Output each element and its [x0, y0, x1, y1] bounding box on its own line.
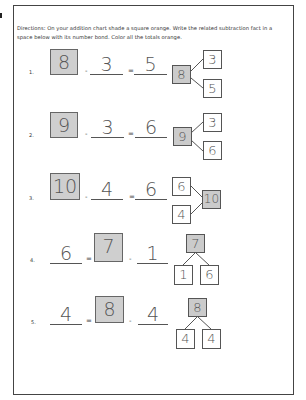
answer-blank: 3: [90, 53, 123, 75]
bond-part-box: 5: [203, 79, 222, 98]
operator: =: [128, 130, 134, 138]
shaded-minuend-box: 9: [50, 112, 78, 138]
problem-number: 3.: [29, 195, 34, 201]
bond-part-box: 4: [176, 329, 195, 349]
operator: =: [129, 193, 135, 201]
scan-artifact: [0, 13, 2, 18]
shaded-minuend-box: 7: [94, 233, 123, 262]
bond-part-box: 6: [172, 177, 191, 196]
bond-part-box: 6: [200, 265, 219, 285]
answer-blank: 6: [50, 242, 82, 264]
answer-blank: 4: [50, 303, 82, 325]
shaded-minuend-box: 8: [95, 296, 124, 323]
operator: -: [129, 317, 132, 325]
answer-blank: 1: [137, 242, 168, 264]
operator: -: [85, 193, 88, 201]
bond-total-box: 8: [188, 298, 207, 317]
bond-part-box: 1: [174, 265, 193, 285]
answer-blank: 6: [135, 116, 167, 138]
problem-number: 4.: [30, 257, 35, 263]
bond-part-box: 3: [203, 113, 222, 132]
problem-number: 2.: [29, 132, 34, 138]
bond-total-box: 8: [172, 65, 191, 84]
answer-blank: 4: [91, 178, 123, 200]
bond-total-box: 9: [173, 127, 192, 146]
problem-number: 1.: [29, 69, 34, 75]
answer-blank: 6: [135, 178, 167, 200]
operator: =: [86, 317, 92, 325]
bond-total-box: 10: [202, 190, 221, 209]
bond-total-box: 7: [186, 234, 205, 253]
bond-part-box: 4: [202, 329, 221, 349]
operator: -: [85, 130, 88, 138]
directions-text: Directions: On your addition chart shade…: [17, 24, 277, 42]
operator: =: [128, 67, 134, 75]
answer-blank: 3: [91, 116, 124, 138]
bond-part-box: 6: [203, 141, 222, 160]
bond-part-box: 3: [203, 50, 222, 69]
answer-blank: 5: [134, 53, 167, 75]
operator: =: [86, 255, 92, 263]
shaded-minuend-box: 10: [50, 173, 80, 200]
operator: -: [129, 255, 132, 263]
operator: -: [85, 67, 88, 75]
bond-part-box: 4: [172, 205, 191, 224]
answer-blank: 4: [138, 303, 168, 325]
answer-blank: [48, 53, 81, 74]
problem-number: 5.: [31, 319, 36, 325]
